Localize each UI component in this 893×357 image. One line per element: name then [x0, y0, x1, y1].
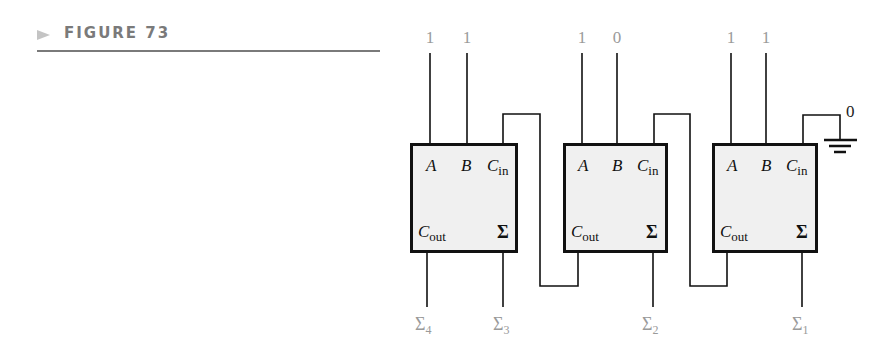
- pin-a: A: [578, 156, 588, 176]
- pin-sum: Σ: [646, 222, 658, 243]
- input-b1-value: 1: [463, 28, 472, 48]
- pin-b: B: [612, 156, 622, 176]
- output-sum2-label: Σ2: [642, 314, 658, 338]
- input-b2-value: 0: [613, 28, 622, 48]
- output-sum4-label: Σ4: [415, 314, 431, 338]
- full-adder-2: A B Cin Cout Σ: [563, 143, 668, 253]
- input-a2-value: 1: [578, 28, 587, 48]
- output-sum1-label: Σ1: [792, 314, 808, 338]
- pin-b: B: [461, 156, 471, 176]
- pin-cin: Cin: [487, 156, 508, 179]
- full-adder-1: A B Cin Cout Σ: [410, 143, 518, 253]
- pin-cin: Cin: [786, 156, 807, 179]
- ground-icon: [824, 140, 857, 152]
- pin-sum: Σ: [497, 222, 509, 243]
- input-a3-value: 1: [727, 28, 736, 48]
- pin-cout: Cout: [720, 222, 748, 245]
- output-sum3-label: Σ3: [493, 314, 509, 338]
- pin-cin: Cin: [637, 156, 658, 179]
- pin-sum: Σ: [796, 222, 808, 243]
- input-b3-value: 1: [762, 28, 771, 48]
- pin-b: B: [761, 156, 771, 176]
- full-adder-3: A B Cin Cout Σ: [712, 143, 818, 253]
- carry-in-ground-value: 0: [846, 102, 855, 122]
- pin-cout: Cout: [571, 222, 599, 245]
- input-a1-value: 1: [426, 28, 435, 48]
- pin-a: A: [426, 156, 436, 176]
- pin-cout: Cout: [418, 222, 446, 245]
- pin-a: A: [727, 156, 737, 176]
